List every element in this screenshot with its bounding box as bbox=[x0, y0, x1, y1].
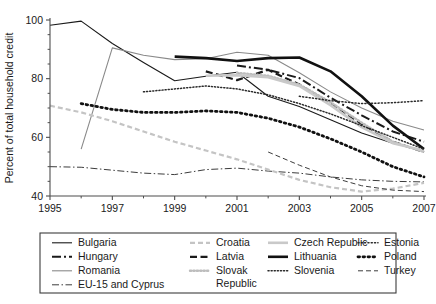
legend-label-estonia: Estonia bbox=[384, 236, 419, 248]
y-tick-label: 80 bbox=[31, 72, 43, 84]
legend-label-turkey: Turkey bbox=[384, 264, 416, 276]
x-tick-label: 1997 bbox=[101, 202, 125, 214]
y-axis-title: Percent of total household credit bbox=[3, 33, 15, 184]
x-tick-label: 2001 bbox=[225, 202, 249, 214]
legend-label-bulgaria: Bulgaria bbox=[78, 236, 117, 248]
legend-label-romania: Romania bbox=[78, 264, 120, 276]
y-tick-label: 40 bbox=[31, 190, 43, 202]
series-line-eu-15-and-cyprus bbox=[50, 167, 424, 182]
x-tick-label: 1995 bbox=[38, 202, 62, 214]
series-line-turkey bbox=[268, 152, 424, 192]
legend-label-slovenia: Slovenia bbox=[294, 264, 334, 276]
x-tick-label: 2003 bbox=[288, 202, 312, 214]
x-tick-label: 2005 bbox=[350, 202, 374, 214]
legend-label-hungary: Hungary bbox=[78, 250, 118, 262]
x-tick-label: 2007 bbox=[412, 202, 436, 214]
chart-legend: BulgariaHungaryRomaniaEU-15 and CyprusCr… bbox=[40, 233, 419, 293]
series-line-poland bbox=[81, 104, 424, 177]
legend-label-eu-15-and-cyprus: EU-15 and Cyprus bbox=[78, 278, 164, 290]
chart-figure: 4060801001995199719992001200320052007Per… bbox=[0, 0, 436, 304]
legend-label-slovak-republic-line2: Republic bbox=[216, 277, 257, 289]
legend-label-slovak-republic: Slovak bbox=[216, 264, 248, 276]
legend-label-czech-republic: Czech Republic bbox=[294, 236, 368, 248]
axes: 4060801001995199719992001200320052007Per… bbox=[3, 14, 436, 214]
plot-area bbox=[50, 21, 424, 191]
line-chart: 4060801001995199719992001200320052007Per… bbox=[0, 0, 436, 304]
legend-label-croatia: Croatia bbox=[216, 236, 250, 248]
legend-label-poland: Poland bbox=[384, 250, 417, 262]
legend-label-lithuania: Lithuania bbox=[294, 250, 337, 262]
legend-label-latvia: Latvia bbox=[216, 250, 244, 262]
y-tick-label: 60 bbox=[31, 131, 43, 143]
x-tick-label: 1999 bbox=[163, 202, 187, 214]
y-tick-label: 100 bbox=[25, 14, 43, 26]
